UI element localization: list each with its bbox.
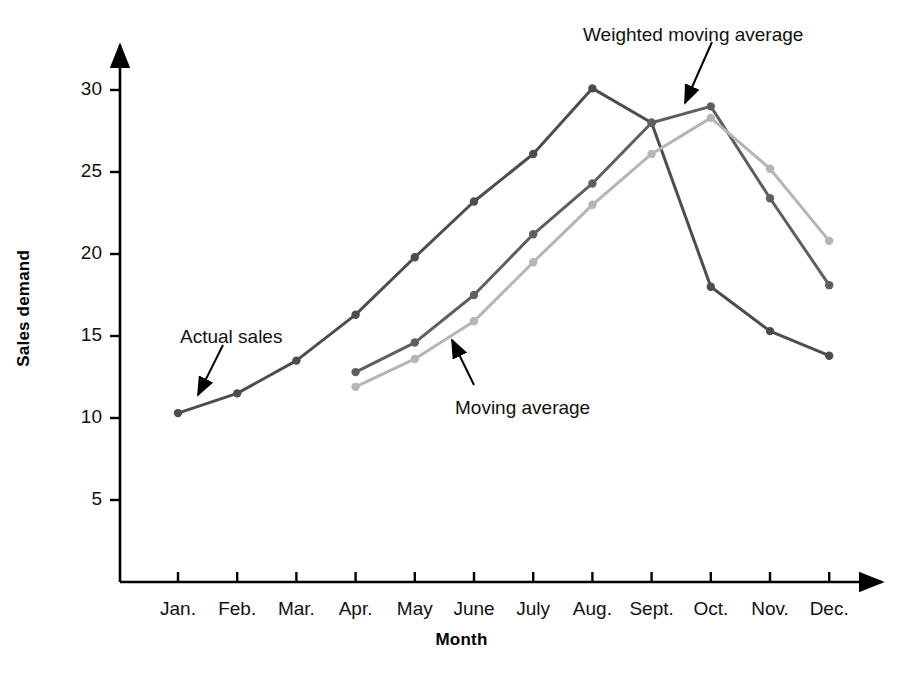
data-point: [351, 383, 359, 391]
y-tick-label: 10: [56, 406, 102, 428]
data-point: [825, 351, 833, 359]
data-point: [588, 179, 596, 187]
data-point: [647, 119, 655, 127]
data-point: [351, 368, 359, 376]
y-tick-label: 15: [56, 324, 102, 346]
data-point: [707, 114, 715, 122]
data-point: [411, 338, 419, 346]
annotation-label-2: Weighted moving average: [583, 24, 803, 46]
data-point: [766, 194, 774, 202]
data-point: [766, 165, 774, 173]
data-point: [766, 327, 774, 335]
data-point: [470, 197, 478, 205]
data-point: [825, 237, 833, 245]
axes: [110, 45, 882, 582]
series-weighted-moving-average: [351, 102, 833, 376]
x-tick-label-11: Dec.: [784, 598, 874, 620]
chart-figure: Sales demand Month 51015202530 Jan.Feb.M…: [0, 0, 923, 685]
data-point: [174, 409, 182, 417]
data-point: [470, 291, 478, 299]
series-moving-average: [351, 114, 833, 391]
data-point: [529, 230, 537, 238]
annotation-label-0: Actual sales: [180, 326, 282, 348]
data-point: [233, 389, 241, 397]
annotation-label-1: Moving average: [455, 397, 590, 419]
data-point: [470, 317, 478, 325]
y-axis-title: Sales demand: [14, 250, 34, 367]
data-point: [292, 356, 300, 364]
data-point: [411, 355, 419, 363]
data-point: [351, 310, 359, 318]
y-tick-label: 20: [56, 242, 102, 264]
y-tick-label: 25: [56, 160, 102, 182]
data-point: [825, 281, 833, 289]
data-point: [588, 84, 596, 92]
series-actual-sales: [174, 84, 834, 417]
data-point: [647, 150, 655, 158]
y-tick-label: 5: [56, 488, 102, 510]
data-point: [588, 201, 596, 209]
data-point: [529, 150, 537, 158]
y-tick-label: 30: [56, 78, 102, 100]
data-point: [411, 253, 419, 261]
data-point: [707, 283, 715, 291]
data-point: [707, 102, 715, 110]
x-axis-title: Month: [0, 630, 923, 650]
data-point: [529, 258, 537, 266]
line-chart-canvas: [0, 0, 923, 685]
